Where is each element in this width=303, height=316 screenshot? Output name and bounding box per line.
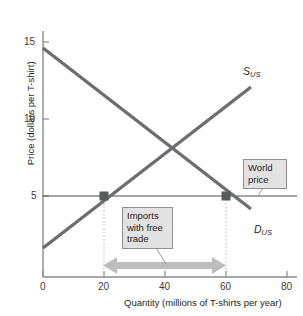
demand-curve-label: DUS (254, 224, 272, 236)
x-tick-label-20: 20 (98, 281, 109, 292)
y-axis-title: Price (dollars per T-shirt) (26, 53, 37, 173)
y-tick-label-15: 15 (24, 36, 35, 47)
economics-figure: 15 10 5 0 20 40 60 80 Price (dollars per… (0, 0, 303, 316)
supply-curve-label-base: S (243, 65, 250, 77)
supply-curve-label: SUS (243, 66, 260, 78)
x-axis-title: Quantity (millions of T-shirts per year) (124, 298, 282, 309)
x-tick-label-0: 0 (40, 281, 46, 292)
world-price-callout: World price (243, 159, 287, 189)
supply-curve-label-subscript: US (250, 70, 260, 79)
demand-curve (43, 48, 251, 209)
x-tick-label-80: 80 (281, 281, 292, 292)
demand-curve-label-subscript: US (262, 228, 272, 237)
demand-curve-label-base: D (254, 223, 262, 235)
x-tick-label-60: 60 (220, 281, 231, 292)
imports-callout: Imports with free trade (122, 207, 173, 249)
x-tick-label-40: 40 (159, 281, 170, 292)
supply-demand-plot (0, 0, 303, 316)
marker-supply-at-world-price (100, 192, 109, 201)
y-tick-label-5: 5 (31, 190, 37, 201)
marker-demand-at-world-price (222, 192, 231, 201)
